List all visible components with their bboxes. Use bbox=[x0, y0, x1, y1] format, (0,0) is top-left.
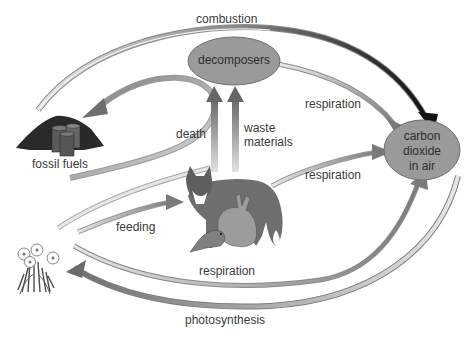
fossil-fuels-icon bbox=[16, 116, 104, 156]
photosynthesis-label: photosynthesis bbox=[185, 313, 265, 327]
death-label: death bbox=[176, 127, 206, 141]
respiration-animals-label: respiration bbox=[305, 168, 361, 182]
respiration-decomposers-label: respiration bbox=[305, 97, 361, 111]
combustion-label: combustion bbox=[196, 12, 257, 26]
animals-icon bbox=[186, 166, 283, 252]
respiration-plants-label: respiration bbox=[199, 264, 255, 278]
waste-line-2: materials bbox=[244, 135, 293, 149]
carbon-dioxide-line-1: carbon bbox=[392, 129, 452, 144]
fossil-fuels-label: fossil fuels bbox=[32, 157, 88, 171]
carbon-dioxide-line-2: dioxide bbox=[392, 144, 452, 159]
decomposers-label: decomposers bbox=[194, 53, 274, 68]
plants-icon bbox=[18, 244, 59, 294]
carbon-dioxide-label: carbon dioxide in air bbox=[392, 129, 452, 174]
carbon-dioxide-line-3: in air bbox=[392, 159, 452, 174]
waste-materials-label: waste materials bbox=[244, 121, 293, 149]
feeding-label: feeding bbox=[116, 220, 155, 234]
waste-line-1: waste bbox=[244, 121, 293, 135]
decomposition-arrows bbox=[206, 86, 244, 172]
